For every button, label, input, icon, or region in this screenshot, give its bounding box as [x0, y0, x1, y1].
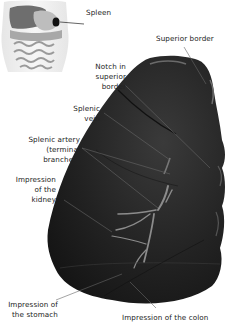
- label-impression-kidney: Impression of the kidney: [10, 175, 56, 205]
- spleen-diagram: Spleen Superior border Notch in superior…: [0, 0, 228, 326]
- label-impression-stomach: Impression of the stomach: [2, 300, 58, 320]
- label-superior-border: Superior border: [156, 34, 214, 44]
- label-splenic-vein: Splenic vein: [60, 104, 100, 124]
- inset-spleen: [53, 18, 60, 27]
- spleen-organ: [47, 56, 225, 304]
- label-impression-colon: Impression of the colon: [122, 313, 209, 323]
- label-inset-spleen: Spleen: [86, 8, 111, 18]
- label-notch-superior-border: Notch in superior border: [86, 62, 126, 92]
- label-splenic-artery: Splenic artery (terminal branches): [12, 135, 80, 165]
- torso-inset: [1, 1, 84, 73]
